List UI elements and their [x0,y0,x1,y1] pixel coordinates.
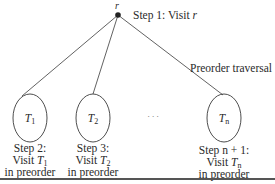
stepn-line2: Visit Tn [199,156,250,168]
step2-line3: in preorder [5,166,56,178]
root-label: r [115,0,119,12]
edge-root-tn [118,15,223,95]
step3-label: Step 3: Visit T2 in preorder [68,142,119,178]
step2-line2: Visit T1 [5,154,56,166]
subtree-t2-label: T2 [88,112,98,128]
edge-root-t1 [22,15,118,96]
step2-line1: Step 2: [5,142,56,154]
step2-label: Step 2: Visit T1 in preorder [5,142,56,178]
step3-line2: Visit T2 [68,154,119,166]
subtree-t1-label: T1 [25,112,35,128]
stepn-line1: Step n + 1: [199,144,250,156]
subtree-tn-label: Tn [219,112,229,128]
bottom-rule [0,178,275,180]
step1-label: Step 1: Visit r [133,9,197,21]
step1-text: Step 1: Visit [133,9,192,21]
step3-line3: in preorder [68,166,119,178]
edge-root-t2 [93,15,118,94]
preorder-traversal-label: Preorder traversal [190,62,272,74]
step3-line1: Step 3: [68,142,119,154]
step-n-plus-1-label: Step n + 1: Visit Tn in preorder [199,144,250,180]
root-node [115,12,121,18]
ellipsis: . . . [147,108,158,120]
step1-var: r [192,9,196,21]
